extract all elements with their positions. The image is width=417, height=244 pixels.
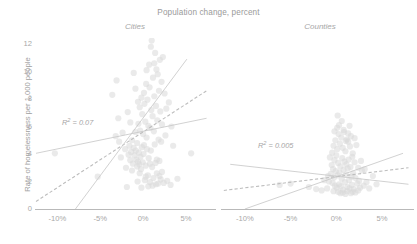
chart-root: Population change, percent Cities Counti…	[0, 0, 417, 244]
scatter-point	[167, 182, 173, 188]
x-tick-label: -5%	[85, 214, 115, 223]
scatter-point	[152, 50, 158, 56]
scatter-point	[370, 173, 376, 179]
scatter-point	[113, 77, 119, 83]
scatter-point	[152, 141, 158, 147]
scatter-point	[143, 67, 149, 73]
scatter-point	[123, 165, 129, 171]
scatter-point	[146, 84, 152, 90]
scatter-point	[327, 154, 333, 160]
scatter-point	[116, 139, 122, 145]
scatter-point	[153, 181, 159, 187]
scatter-point	[148, 44, 154, 50]
scatter-point	[343, 138, 349, 144]
x-tick-label: 5%	[367, 214, 397, 223]
scatter-point	[138, 185, 144, 191]
scatter-point	[331, 128, 337, 134]
scatter-point	[109, 92, 115, 98]
scatter-point	[319, 187, 325, 193]
x-tick-label: -10%	[42, 214, 72, 223]
scatter-point	[366, 185, 372, 191]
scatter-point	[129, 167, 135, 173]
x-tick-label: -5%	[276, 214, 306, 223]
scatter-point	[350, 150, 356, 156]
scatter-point	[149, 113, 155, 119]
scatter-point	[159, 169, 165, 175]
scatter-point	[352, 189, 358, 195]
scatter-point	[277, 182, 283, 188]
scatter-point	[335, 112, 341, 118]
scatter-point	[157, 108, 163, 114]
scatter-point	[353, 142, 359, 148]
scatter-point	[135, 99, 141, 105]
scatter-point	[155, 71, 161, 77]
scatter-point	[137, 170, 143, 176]
scatter-point	[148, 147, 154, 153]
scatter-point	[324, 185, 330, 191]
scatter-point	[127, 119, 133, 125]
scatter-point	[287, 180, 293, 186]
scatter-point	[334, 146, 340, 152]
scatter-point	[115, 115, 121, 121]
scatter-point	[132, 86, 138, 92]
scatter-point	[144, 97, 150, 103]
scatter-point	[134, 140, 140, 146]
scatter-point	[333, 152, 339, 158]
scatter-point	[134, 163, 140, 169]
scatter-point	[347, 164, 353, 170]
scatter-point	[52, 150, 58, 156]
scatter-point	[347, 143, 353, 149]
r-squared-value: = 0.005	[266, 141, 293, 150]
scatter-point	[346, 123, 352, 129]
scatter-point	[143, 174, 149, 180]
scatter-point	[170, 143, 176, 149]
scatter-point	[358, 158, 364, 164]
x-tick-label: 0%	[321, 214, 351, 223]
scatter-point	[373, 181, 379, 187]
scatter-point	[118, 154, 124, 160]
scatter-point	[124, 184, 130, 190]
scatter-point	[151, 60, 157, 66]
x-tick-label: 0%	[128, 214, 158, 223]
trend-line-ols-fit	[36, 91, 207, 202]
scatter-point	[162, 132, 168, 138]
scatter-point	[147, 161, 153, 167]
r-squared-label-cities: R2 = 0.07	[62, 117, 93, 127]
r-squared-label-counties: R2 = 0.005	[258, 140, 293, 150]
scatter-point	[146, 155, 152, 161]
scatter-point	[158, 79, 164, 85]
scatter-point	[345, 130, 351, 136]
scatter-point	[154, 156, 160, 162]
r-squared-value: = 0.07	[70, 118, 93, 127]
scatter-point	[163, 106, 169, 112]
scatter-point	[188, 150, 194, 156]
scatter-point	[151, 93, 157, 99]
panel-counties	[221, 112, 414, 209]
scatter-point	[149, 37, 155, 43]
x-tick-label: -10%	[230, 214, 260, 223]
scatter-point	[156, 88, 162, 94]
scatter-point	[174, 176, 180, 182]
scatter-point	[351, 159, 357, 165]
scatter-point	[141, 90, 147, 96]
scatter-point	[168, 123, 174, 129]
scatter-point	[342, 191, 348, 197]
scatter-point	[351, 135, 357, 141]
scatter-point	[342, 148, 348, 154]
trend-line-shallow-fit	[230, 164, 408, 184]
scatter-point	[313, 186, 319, 192]
scatter-point	[143, 134, 149, 140]
scatter-point	[131, 70, 137, 76]
scatter-point	[158, 139, 164, 145]
scatter-point	[141, 142, 147, 148]
scatter-point	[166, 99, 172, 105]
x-tick-label: 5%	[171, 214, 201, 223]
scatter-point	[154, 117, 160, 123]
scatter-point	[339, 118, 345, 124]
scatter-point	[330, 188, 336, 194]
scatter-point	[160, 54, 166, 60]
scatter-point	[134, 178, 140, 184]
scatter-point	[125, 109, 131, 115]
